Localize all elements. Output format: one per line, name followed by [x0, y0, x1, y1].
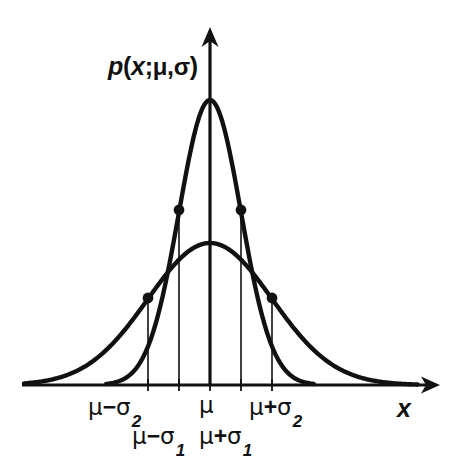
- tick-operator: +: [264, 394, 277, 420]
- y-axis-label: p(x;μ,σ): [108, 54, 198, 79]
- tick-operator: −: [147, 423, 160, 449]
- tick-sigma-glyph: σ: [116, 394, 131, 420]
- y-axis-label-separator: ;: [145, 52, 153, 80]
- inflection-dot-wide-gaussian-sigma2-0: [143, 293, 154, 304]
- tick-subscript: 2: [293, 412, 302, 431]
- y-axis-label-function: p: [108, 52, 123, 80]
- tick-subscript: 1: [176, 441, 185, 460]
- tick-label-mu-minus-sigma1: μ−σ1: [132, 425, 184, 453]
- tick-sigma-glyph: σ: [160, 423, 175, 449]
- tick-subscript: 1: [243, 441, 252, 460]
- tick-operator: −: [103, 394, 116, 420]
- tick-mu-glyph: μ: [132, 423, 147, 449]
- y-axis-label-open-paren: (: [123, 52, 131, 80]
- gaussian-density-figure: p(x;μ,σ) x μ−σ2 μ μ+σ2 μ−σ1 μ+σ1: [0, 0, 457, 476]
- y-axis-label-sigma: σ: [174, 53, 190, 80]
- y-axis-label-close-paren: ): [190, 52, 198, 80]
- y-axis-label-variable: x: [131, 52, 145, 80]
- tick-mu-glyph: μ: [88, 394, 103, 420]
- x-axis-label: x: [397, 396, 411, 421]
- tick-operator: +: [214, 423, 227, 449]
- y-axis-label-mu: μ: [153, 53, 167, 80]
- tick-label-mu-plus-sigma2: μ+σ2: [249, 396, 301, 424]
- plot-canvas: [0, 0, 457, 476]
- inflection-dot-narrow-gaussian-sigma1-1: [236, 205, 247, 216]
- tick-label-mu: μ: [199, 394, 214, 417]
- tick-sigma-glyph: σ: [277, 394, 292, 420]
- tick-sigma-glyph: σ: [227, 423, 242, 449]
- tick-label-mu-plus-sigma1: μ+σ1: [199, 425, 251, 453]
- inflection-dot-narrow-gaussian-sigma1-0: [174, 205, 185, 216]
- inflection-dot-wide-gaussian-sigma2-1: [267, 293, 278, 304]
- tick-mu-glyph: μ: [249, 394, 264, 420]
- tick-mu-glyph: μ: [199, 423, 214, 449]
- y-axis-label-comma: ,: [167, 52, 174, 80]
- tick-mu-glyph: μ: [199, 392, 214, 418]
- figure-background: [0, 0, 457, 476]
- tick-label-mu-minus-sigma2: μ−σ2: [88, 396, 140, 424]
